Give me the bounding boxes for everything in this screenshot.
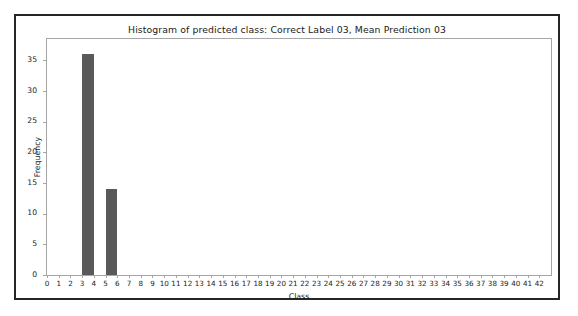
x-tick xyxy=(293,275,294,278)
x-tick-label: 19 xyxy=(265,279,274,288)
x-tick-label: 35 xyxy=(453,279,462,288)
plot-area: Frequency Class 05101520253035 012345678… xyxy=(46,38,552,276)
y-tick: 20 xyxy=(43,152,47,153)
x-tick-label: 7 xyxy=(127,279,132,288)
x-tick-label: 1 xyxy=(56,279,61,288)
y-tick-label: 0 xyxy=(32,270,37,279)
x-tick-label: 37 xyxy=(476,279,485,288)
x-tick-label: 22 xyxy=(300,279,309,288)
y-tick: 5 xyxy=(43,244,47,245)
x-tick-label: 34 xyxy=(441,279,450,288)
histogram-bar xyxy=(106,189,118,275)
y-tick: 25 xyxy=(43,122,47,123)
x-tick xyxy=(340,275,341,278)
x-tick-label: 0 xyxy=(45,279,50,288)
x-tick xyxy=(199,275,200,278)
x-tick xyxy=(270,275,271,278)
x-tick-label: 15 xyxy=(218,279,227,288)
x-tick-label: 2 xyxy=(68,279,73,288)
x-tick xyxy=(328,275,329,278)
x-tick xyxy=(375,275,376,278)
x-tick xyxy=(492,275,493,278)
y-tick: 15 xyxy=(43,183,47,184)
x-tick-label: 17 xyxy=(242,279,251,288)
x-tick xyxy=(117,275,118,278)
x-tick-label: 23 xyxy=(312,279,321,288)
x-tick-label: 26 xyxy=(347,279,356,288)
x-tick-label: 8 xyxy=(138,279,143,288)
x-tick-label: 6 xyxy=(115,279,120,288)
y-axis-label: Frequency xyxy=(33,137,42,177)
x-tick xyxy=(363,275,364,278)
x-tick xyxy=(164,275,165,278)
x-tick-label: 16 xyxy=(230,279,239,288)
y-tick: 35 xyxy=(43,60,47,61)
x-tick-label: 32 xyxy=(417,279,426,288)
x-tick xyxy=(352,275,353,278)
x-tick xyxy=(410,275,411,278)
x-axis-label: Class xyxy=(47,292,551,301)
x-tick-label: 41 xyxy=(523,279,532,288)
x-tick xyxy=(152,275,153,278)
x-tick-label: 38 xyxy=(488,279,497,288)
x-tick-label: 11 xyxy=(171,279,180,288)
x-tick xyxy=(235,275,236,278)
x-tick xyxy=(434,275,435,278)
x-tick-label: 29 xyxy=(382,279,391,288)
figure-panel: Histogram of predicted class: Correct La… xyxy=(14,14,560,300)
x-tick xyxy=(305,275,306,278)
chart-title: Histogram of predicted class: Correct La… xyxy=(16,24,558,35)
x-tick xyxy=(223,275,224,278)
histogram-bar xyxy=(82,54,94,275)
x-tick-label: 28 xyxy=(371,279,380,288)
x-tick xyxy=(70,275,71,278)
x-tick-label: 20 xyxy=(277,279,286,288)
x-tick xyxy=(246,275,247,278)
x-tick xyxy=(141,275,142,278)
x-tick-label: 12 xyxy=(183,279,192,288)
x-tick xyxy=(481,275,482,278)
x-tick-label: 24 xyxy=(324,279,333,288)
x-tick xyxy=(399,275,400,278)
x-tick xyxy=(469,275,470,278)
y-tick-label: 20 xyxy=(27,147,37,156)
x-tick-label: 31 xyxy=(406,279,415,288)
y-tick: 10 xyxy=(43,214,47,215)
x-tick-label: 14 xyxy=(207,279,216,288)
y-tick-label: 10 xyxy=(27,208,37,217)
x-tick xyxy=(281,275,282,278)
x-tick-label: 39 xyxy=(500,279,509,288)
x-tick xyxy=(446,275,447,278)
x-tick xyxy=(129,275,130,278)
x-tick xyxy=(504,275,505,278)
y-tick-label: 30 xyxy=(27,86,37,95)
x-tick-label: 42 xyxy=(535,279,544,288)
x-tick-label: 36 xyxy=(464,279,473,288)
x-tick-label: 21 xyxy=(289,279,298,288)
x-tick-label: 25 xyxy=(335,279,344,288)
x-tick xyxy=(106,275,107,278)
x-tick-label: 18 xyxy=(253,279,262,288)
x-tick xyxy=(457,275,458,278)
x-tick-label: 4 xyxy=(92,279,97,288)
x-tick xyxy=(539,275,540,278)
x-tick xyxy=(387,275,388,278)
x-tick-label: 27 xyxy=(359,279,368,288)
x-tick-label: 30 xyxy=(394,279,403,288)
x-tick xyxy=(317,275,318,278)
x-tick-label: 5 xyxy=(103,279,108,288)
x-tick xyxy=(528,275,529,278)
x-tick-label: 40 xyxy=(511,279,520,288)
x-tick xyxy=(47,275,48,278)
y-tick: 30 xyxy=(43,91,47,92)
x-tick xyxy=(94,275,95,278)
x-tick-label: 9 xyxy=(150,279,155,288)
y-tick-label: 15 xyxy=(27,178,37,187)
x-tick xyxy=(211,275,212,278)
x-tick-label: 13 xyxy=(195,279,204,288)
x-tick xyxy=(59,275,60,278)
x-tick xyxy=(188,275,189,278)
y-tick-label: 25 xyxy=(27,116,37,125)
x-tick xyxy=(422,275,423,278)
y-tick-label: 35 xyxy=(27,55,37,64)
